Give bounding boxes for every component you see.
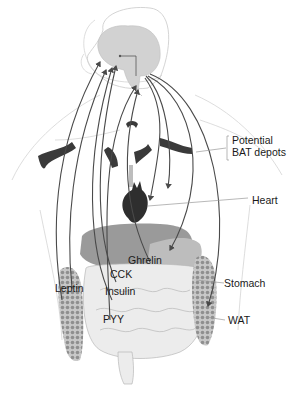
arrow-leptin-left	[56, 62, 100, 300]
label-ghrelin: Ghrelin	[128, 254, 162, 266]
label-cck: CCK	[110, 268, 132, 280]
arrow-brain-to-heart	[145, 78, 160, 200]
bat-depot-right-neck	[134, 144, 152, 164]
trachea	[129, 165, 133, 187]
diagram-canvas: Potential BAT depots Heart Ghrelin CCK L…	[0, 0, 307, 410]
label-potential-bat-depots: Potential BAT depots	[232, 134, 286, 158]
label-insulin: Insulin	[105, 285, 135, 297]
label-pyy: PYY	[103, 313, 124, 325]
bat-depot-right-shoulder	[160, 138, 192, 154]
heart-icon	[122, 181, 147, 223]
label-wat: WAT	[228, 314, 250, 326]
intestines	[83, 264, 206, 384]
label-stomach: Stomach	[224, 277, 265, 289]
bat-depot-left-shoulder	[38, 142, 76, 168]
label-heart: Heart	[252, 194, 278, 206]
bat-depot-supraclavicular	[126, 121, 138, 128]
label-leptin: Leptin	[55, 282, 84, 294]
arrow-brain-to-bat-right	[146, 76, 170, 188]
